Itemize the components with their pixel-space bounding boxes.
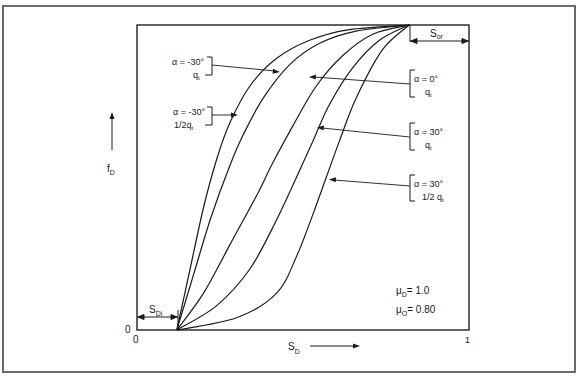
arrow-head-icon — [329, 177, 336, 182]
annotation-alpha-30-qt: α = 30° qt — [317, 123, 443, 151]
sor-label: Sor — [430, 28, 444, 40]
x-axis-arrow-icon — [310, 344, 360, 349]
x-origin-tick: 0 — [133, 334, 139, 345]
svg-text:α = 0°: α = 0° — [414, 74, 438, 84]
svg-text:qt: qt — [425, 140, 432, 151]
x-axis-label: SD — [288, 341, 300, 355]
svg-text:α = 30°: α = 30° — [414, 127, 443, 137]
x-end-tick: 1 — [465, 335, 470, 345]
svg-text:qt: qt — [425, 87, 432, 98]
arrow-head-icon — [273, 69, 280, 74]
svg-text:α = -30°: α = -30° — [172, 57, 204, 67]
y-axis-arrow-icon — [110, 112, 115, 150]
svg-text:α = -30°: α = -30° — [173, 107, 205, 117]
arrow-head-icon — [309, 75, 316, 80]
annotation-alpha-0-qt: α = 0° qt — [309, 70, 438, 98]
sdi-label: SDi — [149, 304, 163, 317]
param-mu-d: μD= 1.0 — [396, 285, 430, 298]
svg-text:qt: qt — [193, 70, 200, 81]
svg-text:1/2 qt: 1/2 qt — [422, 192, 444, 203]
svg-text:α = 30°: α = 30° — [414, 179, 443, 189]
param-mu-o: μO= 0.80 — [396, 304, 436, 317]
relative-permeability-chart: SDi Sor 0 0 1 fD SD μD= 1.0 μO= 0.80 α =… — [0, 0, 583, 377]
y-origin-tick: 0 — [125, 324, 131, 335]
annotation-alpha-30-half-qt: α = 30° 1/2 qt — [329, 175, 444, 203]
svg-text:1/2qt: 1/2qt — [174, 120, 194, 131]
y-axis-label: fD — [107, 163, 115, 176]
